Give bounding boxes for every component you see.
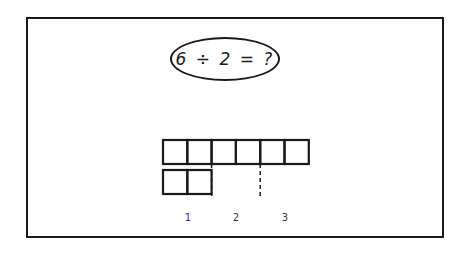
total-units-row (163, 140, 309, 164)
group-label-1: 1 (185, 212, 191, 223)
group-dividers (212, 164, 261, 198)
unit-cell (212, 140, 236, 164)
unit-cell (260, 140, 284, 164)
group-label-2: 2 (233, 212, 239, 223)
unit-cell (187, 140, 211, 164)
group-cell (187, 170, 211, 194)
group-row (163, 170, 212, 194)
unit-cell (236, 140, 260, 164)
unit-cell (285, 140, 309, 164)
unit-cell (163, 140, 187, 164)
group-label-3: 3 (282, 212, 288, 223)
group-cell (163, 170, 187, 194)
